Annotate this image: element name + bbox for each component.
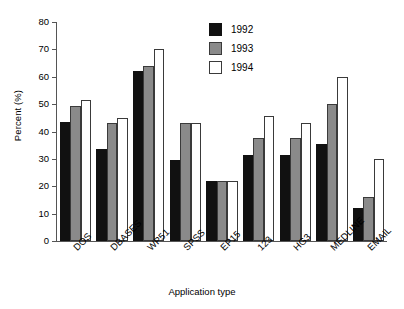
- bar-dbases-1992: [96, 149, 107, 241]
- bar-dos-1993: [70, 106, 81, 242]
- x-axis-title: Application type: [0, 286, 404, 297]
- y-tick-label: 50: [38, 97, 49, 110]
- bar-ep15-1993: [217, 181, 228, 241]
- bar-hg3-1994: [301, 123, 312, 241]
- bar-group: [94, 22, 131, 241]
- bar-hg3-1992: [280, 155, 291, 241]
- bar-dos-1992: [60, 122, 71, 241]
- bar-wp51-1994: [154, 49, 165, 241]
- y-tick-label: 30: [38, 152, 49, 165]
- bar-dos-1994: [81, 100, 92, 241]
- legend-label-1994: 1994: [231, 62, 253, 73]
- bar-spss-1992: [170, 160, 181, 241]
- bar-group: [57, 22, 94, 241]
- bar-ep15-1992: [206, 181, 217, 241]
- y-tick-label: 60: [38, 70, 49, 83]
- bar-hg3-1993: [290, 138, 301, 241]
- bar-group: [167, 22, 204, 241]
- legend-swatch-1992: [209, 23, 222, 36]
- legend-item: 1993: [209, 39, 253, 58]
- bar-wp51-1993: [143, 66, 154, 241]
- bar-group: [130, 22, 167, 241]
- legend-label-1993: 1993: [231, 43, 253, 54]
- bar-123-1992: [243, 155, 254, 241]
- y-tick-mark: [52, 241, 57, 242]
- bar-spss-1994: [191, 123, 202, 241]
- y-tick-label: 10: [38, 207, 49, 220]
- legend-item: 1994: [209, 58, 253, 77]
- chart-legend: 1992 1993 1994: [209, 20, 253, 77]
- bar-group: [277, 22, 314, 241]
- bar-email-1993: [363, 197, 374, 241]
- legend-swatch-1994: [209, 61, 222, 74]
- y-tick-label: 40: [38, 125, 49, 138]
- bar-123-1994: [264, 116, 275, 241]
- y-axis-title: Percent (%): [12, 61, 23, 171]
- bar-group: [350, 22, 387, 241]
- y-tick-label: 20: [38, 179, 49, 192]
- bar-dbases-1994: [117, 118, 128, 241]
- y-tick-label: 70: [38, 42, 49, 55]
- bar-wp51-1992: [133, 71, 144, 241]
- legend-swatch-1993: [209, 42, 222, 55]
- bar-medline-1994: [337, 77, 348, 241]
- bar-chart: Percent (%) 01020304050607080 DOSDBASESW…: [0, 0, 404, 309]
- y-tick-label: 0: [44, 234, 49, 247]
- y-tick-label: 80: [38, 15, 49, 28]
- legend-item: 1992: [209, 20, 253, 39]
- bar-dbases-1993: [107, 123, 118, 241]
- bar-123-1993: [253, 138, 264, 241]
- bar-group: [314, 22, 351, 241]
- legend-label-1992: 1992: [231, 24, 253, 35]
- bar-medline-1992: [316, 144, 327, 241]
- bar-spss-1993: [180, 123, 191, 241]
- bar-medline-1993: [327, 104, 338, 241]
